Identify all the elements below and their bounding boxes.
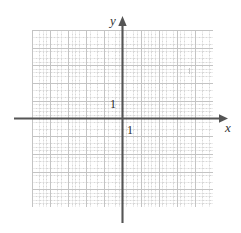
x-axis-unit-tick-label: 1 <box>127 124 133 136</box>
axes-group <box>0 0 241 233</box>
coordinate-grid-figure: y x 1 1 <box>0 0 241 233</box>
y-axis-arrowhead <box>118 16 126 26</box>
x-axis-label: x <box>225 121 231 134</box>
y-axis-unit-tick-label: 1 <box>110 98 116 110</box>
y-axis-label: y <box>110 14 116 27</box>
